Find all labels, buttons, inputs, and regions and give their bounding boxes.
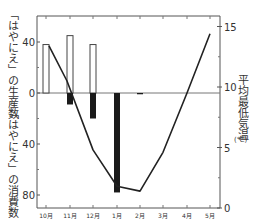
right-tick-label: 15 bbox=[224, 22, 237, 33]
production-bars bbox=[43, 36, 96, 93]
chart-svg: 4004080 151050 10月11月12月1月2月3月4月5月 bbox=[0, 0, 256, 224]
right-tick-label: 10 bbox=[224, 82, 237, 93]
month-label: 1月 bbox=[112, 212, 122, 220]
month-label: 10月 bbox=[39, 212, 53, 220]
consumption-bar bbox=[137, 93, 143, 94]
plot-frame bbox=[37, 16, 220, 208]
right-tick-label: 5 bbox=[224, 143, 230, 154]
right-tick-label: 0 bbox=[224, 203, 230, 214]
month-label: 11月 bbox=[63, 212, 77, 220]
left-tick-label: 40 bbox=[22, 139, 35, 150]
consumption-bar bbox=[114, 93, 120, 192]
right-axis-unit: (℃) bbox=[234, 136, 247, 144]
consumption-bar bbox=[90, 93, 96, 119]
left-upper-axis-label: 「はやにえ」の生産数 bbox=[6, 9, 18, 119]
month-label: 12月 bbox=[86, 212, 100, 220]
month-label: 4月 bbox=[182, 212, 192, 220]
left-tick-label: 80 bbox=[22, 190, 35, 201]
month-label: 3月 bbox=[158, 212, 168, 220]
left-tick-label: 0 bbox=[29, 88, 35, 99]
month-label: 5月 bbox=[205, 212, 215, 220]
x-axis: 10月11月12月1月2月3月4月5月 bbox=[39, 205, 215, 220]
production-bar bbox=[43, 45, 49, 93]
consumption-bars bbox=[67, 93, 143, 192]
production-bar bbox=[90, 45, 96, 93]
month-label: 2月 bbox=[135, 212, 145, 220]
left-tick-label: 40 bbox=[22, 37, 35, 48]
left-lower-axis-label: 「はやにえ」の消費数 bbox=[6, 108, 18, 218]
right-axis-label: 平均最低気温 bbox=[236, 74, 248, 140]
